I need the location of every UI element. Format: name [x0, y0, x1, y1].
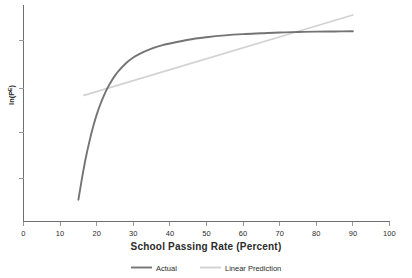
x-tick-label: 90	[349, 229, 358, 238]
x-tick-label: 40	[166, 229, 175, 238]
x-tick-label: 80	[312, 229, 321, 238]
x-tick-label: 0	[21, 229, 25, 238]
x-tick-label: 100	[383, 229, 396, 238]
chart-legend: Actual Linear Prediction	[131, 264, 281, 273]
x-tick-label: 70	[275, 229, 284, 238]
x-tick-label: 20	[92, 229, 101, 238]
x-axis-title: School Passing Rate (Percent)	[131, 241, 282, 252]
chart-figure: 0 10 20 30 40 50 60 70 80 90 100 ln(Pᴱ) …	[0, 0, 412, 278]
x-tick-label: 60	[239, 229, 248, 238]
legend-label-actual: Actual	[156, 264, 177, 273]
x-axis-tick-labels: 0 10 20 30 40 50 60 70 80 90 100	[21, 229, 396, 238]
x-tick-label: 50	[202, 229, 211, 238]
x-tick-label: 30	[129, 229, 138, 238]
series-line-linear-prediction	[84, 15, 353, 95]
x-axis-ticks	[24, 222, 390, 227]
x-tick-label: 10	[56, 229, 65, 238]
y-axis-ticks	[19, 41, 24, 179]
legend-label-linear-prediction: Linear Prediction	[225, 264, 281, 273]
chart-canvas: 0 10 20 30 40 50 60 70 80 90 100 ln(Pᴱ) …	[0, 0, 412, 278]
y-axis-title: ln(Pᴱ)	[7, 85, 16, 105]
